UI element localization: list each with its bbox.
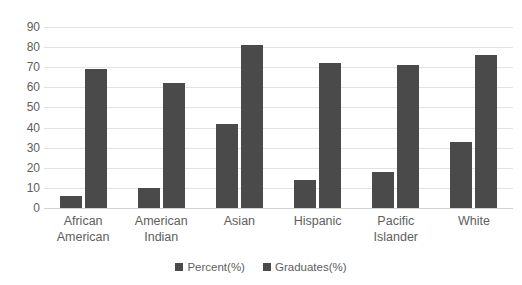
x-axis-category-label: AfricanAmerican: [44, 213, 122, 245]
chart-legend: Percent(%)Graduates(%): [0, 261, 522, 273]
y-axis: 9080706050403020100: [0, 20, 40, 215]
x-axis-category-line: White: [435, 213, 513, 229]
bar[interactable]: [138, 188, 160, 208]
x-axis-category-line: Hispanic: [279, 213, 357, 229]
x-axis-category-line: African: [44, 213, 122, 229]
bar[interactable]: [294, 180, 316, 208]
x-axis-category-line: American: [122, 213, 200, 229]
y-axis-tick-label: 60: [4, 81, 40, 93]
x-axis-category-line: Indian: [122, 229, 200, 245]
x-axis-category-label: AmericanIndian: [122, 213, 200, 245]
axis-baseline: [44, 208, 513, 209]
x-axis-category-line: Asian: [200, 213, 278, 229]
plot-area: [44, 27, 513, 208]
legend-swatch-icon: [263, 263, 271, 271]
x-axis-category-line: Pacific: [357, 213, 435, 229]
bar-chart: 9080706050403020100 AfricanAmericanAmeri…: [0, 0, 522, 285]
y-axis-tick-label: 90: [4, 21, 40, 33]
x-axis-category-label: Hispanic: [279, 213, 357, 245]
bar[interactable]: [450, 142, 472, 208]
bar-group: [357, 27, 435, 208]
x-axis-category-label: Asian: [200, 213, 278, 245]
x-axis-category-line: Islander: [357, 229, 435, 245]
y-axis-tick-label: 70: [4, 61, 40, 73]
legend-swatch-icon: [175, 263, 183, 271]
bar[interactable]: [216, 124, 238, 208]
legend-label: Graduates(%): [275, 261, 347, 273]
bar-group: [279, 27, 357, 208]
y-axis-tick-label: 30: [4, 142, 40, 154]
y-axis-tick-label: 0: [4, 202, 40, 214]
bar-group: [200, 27, 278, 208]
bar[interactable]: [319, 63, 341, 208]
chart-title: [0, 0, 522, 2]
y-axis-tick-label: 20: [4, 162, 40, 174]
bar-group: [44, 27, 122, 208]
bar-group: [122, 27, 200, 208]
bar-group: [435, 27, 513, 208]
x-axis-category-label: PacificIslander: [357, 213, 435, 245]
bar[interactable]: [85, 69, 107, 208]
bar[interactable]: [60, 196, 82, 208]
x-axis-category-label: White: [435, 213, 513, 245]
y-axis-tick-label: 80: [4, 41, 40, 53]
y-axis-tick-label: 10: [4, 182, 40, 194]
x-axis-category-line: American: [44, 229, 122, 245]
bar[interactable]: [241, 45, 263, 208]
legend-item[interactable]: Graduates(%): [263, 261, 347, 273]
y-axis-tick-label: 50: [4, 101, 40, 113]
legend-label: Percent(%): [187, 261, 245, 273]
bar[interactable]: [397, 65, 419, 208]
bar[interactable]: [475, 55, 497, 208]
bar[interactable]: [372, 172, 394, 208]
bar-groups: [44, 27, 513, 208]
bar[interactable]: [163, 83, 185, 208]
x-axis-categories: AfricanAmericanAmericanIndianAsianHispan…: [44, 213, 513, 245]
legend-item[interactable]: Percent(%): [175, 261, 245, 273]
y-axis-tick-label: 40: [4, 122, 40, 134]
